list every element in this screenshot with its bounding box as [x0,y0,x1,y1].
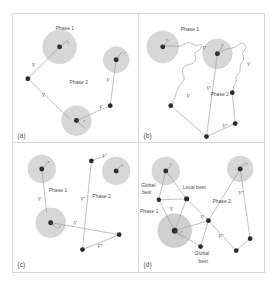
panel-a-canvas: Phase 1 Phase 2 V V V V r r r [13,14,138,143]
panel-c-canvas: Phase 1 Phase 2 V V' V V' V'' r r r [13,143,138,272]
panel-tag-a: (a) [18,133,26,139]
radius-label: r [221,41,223,46]
figure-root: Phase 1 Phase 2 V V V V r r r (a) [0,0,276,284]
global-best-label: Global [194,250,209,256]
velocity-label: V [31,61,35,67]
radius-label: r [67,39,69,44]
waypoint-node [229,90,234,95]
global-best-label: Global [140,182,155,188]
velocity-label: V [200,214,204,220]
velocity-label: V [247,60,251,66]
halos-b [146,30,231,68]
phase-label: Phase 1 [55,24,74,30]
local-best-label: Local best [182,184,206,190]
velocity-label: V [106,76,110,82]
waypoint-node [88,159,93,164]
phase-label: Phase 2 [92,193,111,199]
phase-label: Phase 1 [48,187,67,193]
radius-label: r [124,49,126,54]
waypoint-node [168,103,173,108]
radius-label: r [169,161,171,166]
velocity-label: V [73,220,77,226]
global-best-label: best [141,189,151,195]
panel-d-canvas: Global best Local best Phase 1 Phase 2 G… [139,143,264,272]
phase-label: Phase 1 [139,208,158,214]
panel-b: Phase 1 Phase 2 V V V V' V'' r r (b) [138,13,265,144]
waypoint-node [232,121,237,126]
panel-b-canvas: Phase 1 Phase 2 V V V V' V'' r r [139,14,264,143]
velocity-label: V'' [238,190,244,196]
panel-a: Phase 1 Phase 2 V V V V r r r (a) [12,13,139,144]
velocity-label: V'' [218,233,224,239]
radius-label: r [165,36,167,41]
radius-label: r [246,161,248,166]
velocity-label: V'' [222,122,228,128]
velocity-label: V [186,92,190,98]
phase-label: Phase 1 [180,25,199,31]
radius-label: r [122,163,124,168]
velocity-label: V [169,206,173,212]
panel-tag-b: (b) [144,133,152,139]
phase-label: Phase 2 [69,78,88,84]
local-best-node [184,196,189,201]
waypoint-node [80,247,85,252]
radius-label: r [83,117,85,122]
phase-label: Phase 2 [210,90,229,96]
waypoint-node [247,236,252,241]
global-best-label: best [198,258,208,264]
velocity-label: V'' [97,243,103,249]
radius-label: r [47,159,49,164]
waypoint-node [204,134,209,139]
velocity-label: V [37,196,41,202]
radius-label: r [180,229,182,234]
waypoint-node [233,248,238,253]
panel-tag-d: (d) [144,262,152,268]
waypoint-node [107,103,112,108]
velocity-label: V' [102,153,107,159]
panel-grid: Phase 1 Phase 2 V V V V r r r (a) [12,13,264,272]
waypoint-node [25,76,30,81]
velocity-label: V' [80,196,85,202]
waypoint-node [116,232,121,237]
radius-label: r [58,224,60,229]
global-best-node [198,244,203,249]
phase-label: Phase 2 [212,198,231,204]
panel-tag-c: (c) [18,262,26,268]
panel-d: Global best Local best Phase 1 Phase 2 G… [138,142,265,273]
waypoint-node [206,218,211,223]
global-best-node [156,198,160,202]
panel-c: Phase 1 Phase 2 V V' V V' V'' r r r (c) [12,142,139,273]
velocity-label: V [41,91,45,97]
